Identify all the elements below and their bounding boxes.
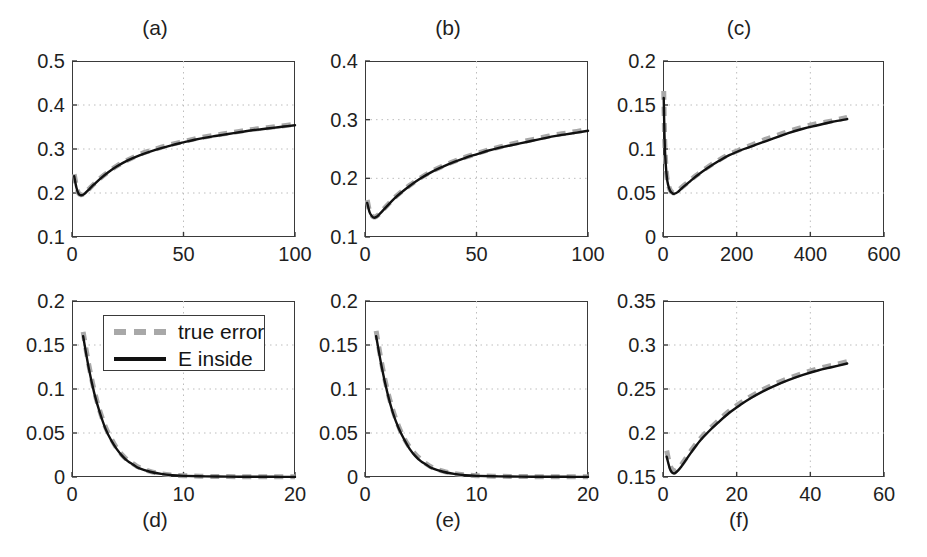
panel-e-ytick-4: 0.2 [330,290,358,313]
panel-c: (c) 00.050.10.150.20200400600 [591,0,927,278]
panel-b-ytick-1: 0.2 [330,167,358,190]
panel-e-xtick-0: 0 [359,483,370,506]
panel-f-xtick-2: 40 [799,483,821,506]
panel-f: (f) 0.150.20.250.30.350204060 [591,280,927,557]
panel-a-ytick-4: 0.5 [37,50,65,73]
panel-b-ytick-0: 0.1 [330,226,358,249]
panel-e-xtick-1: 10 [465,483,487,506]
panel-c-xtick-0: 0 [657,243,668,266]
series-true-error [74,124,295,194]
panel-b-ytick-2: 0.3 [330,108,358,131]
panel-c-ytick-0: 0 [645,226,656,249]
panel-f-xtick-1: 20 [726,483,748,506]
panel-d-ytick-2: 0.1 [37,378,65,401]
panel-f-ytick-4: 0.35 [617,290,656,313]
panel-e: (e) 00.050.10.150.201020 [293,280,603,557]
legend-label-e-inside: E inside [178,347,253,371]
panel-a: (a) 0.10.20.30.40.5050100 [0,0,310,278]
panel-f-xtick-3: 60 [873,483,895,506]
panel-d-ytick-3: 0.15 [26,334,65,357]
legend-swatch-solid [114,357,166,361]
legend-entry-e-inside: E inside [114,347,253,371]
series-true-error [667,362,847,471]
legend-swatch-dashed [114,329,166,335]
panel-f-xtick-0: 0 [657,483,668,506]
panel-a-ytick-0: 0.1 [37,226,65,249]
figure-canvas: (a) 0.10.20.30.40.5050100 (b) 0.10.20.30… [0,0,927,557]
panel-b-xtick-1: 50 [465,243,487,266]
panel-b-xtick-0: 0 [359,243,370,266]
panel-e-ytick-0: 0 [347,466,358,489]
panel-e-ytick-1: 0.05 [319,422,358,445]
panel-d-xtick-1: 10 [172,483,194,506]
panel-a-ytick-2: 0.3 [37,138,65,161]
series-true-error [367,130,588,217]
series-true-error [376,331,588,477]
panel-f-ytick-2: 0.25 [617,378,656,401]
panel-c-xtick-3: 600 [867,243,900,266]
panel-f-ytick-3: 0.3 [628,334,656,357]
panel-d-ytick-1: 0.05 [26,422,65,445]
panel-c-ytick-3: 0.15 [617,94,656,117]
panel-c-ytick-1: 0.05 [617,182,656,205]
panel-f-ytick-0: 0.15 [617,466,656,489]
series-true-error [664,91,847,193]
panel-d-xtick-0: 0 [66,483,77,506]
panel-a-ytick-3: 0.4 [37,94,65,117]
panel-d-ytick-0: 0 [54,466,65,489]
legend-label-true-error: true error [178,320,264,344]
panel-e-caption: (e) [293,508,603,532]
panel-c-xtick-2: 400 [794,243,827,266]
panel-d-ytick-4: 0.2 [37,290,65,313]
series-e-inside [667,363,847,473]
panel-e-ytick-3: 0.15 [319,334,358,357]
panel-a-xtick-1: 50 [172,243,194,266]
panel-b: (b) 0.10.20.30.4050100 [293,0,603,278]
series-e-inside [74,125,295,195]
series-e-inside [664,98,847,194]
series-e-inside [367,131,588,218]
panel-a-ytick-1: 0.2 [37,182,65,205]
panel-e-ytick-2: 0.1 [330,378,358,401]
panel-a-xtick-0: 0 [66,243,77,266]
panel-b-ytick-3: 0.4 [330,50,358,73]
panel-c-xtick-1: 200 [720,243,753,266]
panel-f-caption: (f) [571,508,907,532]
panel-c-ytick-2: 0.1 [628,138,656,161]
panel-d-caption: (d) [0,508,310,532]
series-e-inside [376,336,588,477]
legend: true error E inside [103,315,265,371]
panel-d: true error E inside (d) 00.050.10.150.20… [0,280,310,557]
panel-c-ytick-4: 0.2 [628,50,656,73]
legend-entry-true-error: true error [114,320,264,344]
panel-f-ytick-1: 0.2 [628,422,656,445]
